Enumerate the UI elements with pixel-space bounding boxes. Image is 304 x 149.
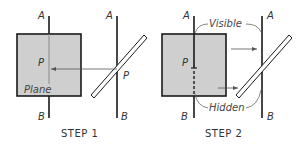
diagram-canvas: A B A B P P Plane STEP 1 Visible Hi: [0, 0, 304, 149]
step1-plane-edge-view: [91, 35, 147, 98]
step2-hidden-label: Hidden: [209, 102, 244, 113]
step2-caption: STEP 2: [205, 128, 242, 139]
step2-label-a-left: A: [182, 10, 190, 21]
step1-label-a-right: A: [105, 10, 113, 21]
step1-label-b-right: B: [121, 111, 128, 122]
step1-caption: STEP 1: [61, 128, 98, 139]
step1-label-b-left: B: [38, 111, 45, 122]
step2-hidden-leader-right: [246, 90, 261, 108]
step2-visible-leader-right: [246, 24, 261, 32]
step2-plane-edge-view: [236, 35, 292, 98]
step2-label-b-left: B: [181, 111, 188, 122]
step1-label-a-left: A: [37, 10, 45, 21]
step1-label-p-left: P: [38, 57, 45, 68]
step2-label-p-left: P: [182, 57, 189, 68]
step1-group: A B A B P P Plane STEP 1: [17, 10, 147, 139]
step2-label-b-right: B: [267, 111, 274, 122]
step2-visible-label: Visible: [209, 18, 242, 29]
step2-label-a-right: A: [266, 10, 274, 21]
step1-label-p-right: P: [123, 70, 130, 81]
step1-plane-label: Plane: [24, 84, 51, 95]
step2-visible-leader-left: [195, 24, 208, 33]
step2-group: Visible Hidden A B A B P STEP 2: [162, 10, 292, 139]
